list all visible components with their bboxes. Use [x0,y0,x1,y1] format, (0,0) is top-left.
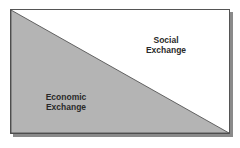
economic-exchange-region [11,10,229,133]
economic-label-line2: Exchange [36,102,96,112]
economic-exchange-label: Economic Exchange [36,92,96,112]
social-label-line1: Social [136,35,196,45]
social-label-line2: Exchange [136,45,196,55]
diagram-svg [0,0,240,148]
economic-label-line1: Economic [36,92,96,102]
social-exchange-label: Social Exchange [136,35,196,55]
